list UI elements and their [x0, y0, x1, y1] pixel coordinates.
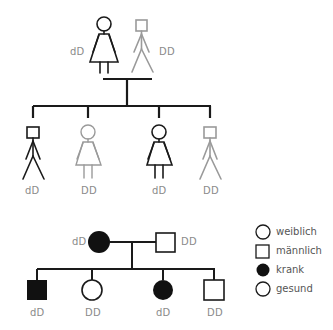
top-parent-male-genotype: DD — [159, 47, 175, 57]
bottom-child-3-female-affected-symbol — [153, 280, 173, 300]
top-family-lines — [33, 79, 211, 118]
top-child-4-genotype: DD — [203, 186, 219, 196]
top-child-1-genotype: dD — [25, 186, 39, 196]
top-parent-female-genotype: dD — [70, 47, 84, 57]
bottom-family-lines — [37, 242, 215, 280]
legend-label-healthy: gesund — [276, 283, 313, 295]
bottom-child-1-genotype: dD — [30, 308, 44, 318]
bottom-parent-female-affected-symbol — [88, 231, 110, 253]
bottom-child-2-genotype: DD — [85, 308, 101, 318]
bottom-child-2-female-healthy-symbol — [82, 280, 102, 300]
legend-circle-outline-icon — [256, 225, 270, 239]
bottom-child-4-genotype: DD — [207, 308, 223, 318]
bottom-parent-male-healthy-symbol — [156, 233, 175, 252]
bottom-child-4-male-healthy-symbol — [204, 280, 224, 300]
top-child-4-male-figure — [200, 127, 221, 179]
top-child-2-female-figure — [76, 125, 101, 178]
legend-square-outline-icon — [256, 245, 269, 258]
bottom-child-1-male-affected-symbol — [27, 280, 47, 300]
top-parent-female-figure — [90, 17, 118, 73]
bottom-child-3-genotype: dD — [156, 308, 170, 318]
legend-label-male: männlich — [276, 245, 322, 257]
top-child-1-male-figure — [23, 127, 44, 179]
top-child-3-genotype: dD — [152, 186, 166, 196]
top-parent-male-figure — [132, 20, 153, 72]
bottom-parent-female-genotype: dD — [72, 237, 86, 247]
bottom-parent-male-genotype: DD — [181, 237, 197, 247]
legend-circle-outline-icon-2 — [256, 282, 270, 296]
legend-label-affected: krank — [276, 264, 304, 276]
legend-circle-filled-icon — [257, 264, 270, 277]
top-child-2-genotype: DD — [81, 186, 97, 196]
legend-label-female: weiblich — [276, 226, 317, 238]
top-child-3-female-figure — [147, 125, 172, 178]
